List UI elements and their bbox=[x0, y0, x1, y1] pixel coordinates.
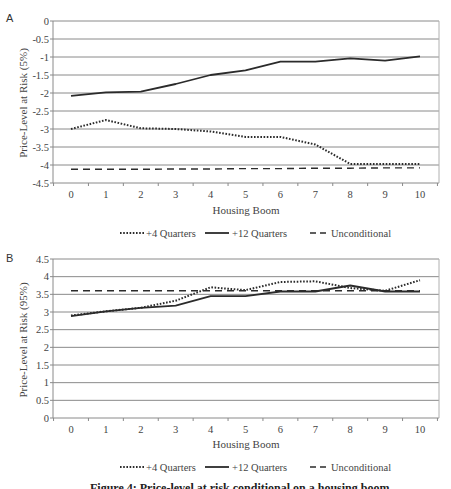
figure-caption: Figure 4: Price-level at risk conditiona… bbox=[0, 480, 451, 489]
y-tick-label: -3 bbox=[40, 124, 49, 135]
y-tick-label: -1 bbox=[40, 52, 49, 63]
x-tick-label: 0 bbox=[68, 424, 73, 435]
x-tick-label: 7 bbox=[313, 189, 318, 200]
x-tick-label: 1 bbox=[103, 189, 108, 200]
x-tick-label: 10 bbox=[415, 189, 426, 200]
x-tick-label: 5 bbox=[243, 189, 248, 200]
y-tick-label: 3.5 bbox=[36, 289, 49, 300]
panel-b-x-axis-title: Housing Boom bbox=[213, 438, 280, 450]
panel-b-series bbox=[71, 280, 420, 316]
panel-a-x-axis: 012345678910 bbox=[54, 183, 438, 200]
panel-a-plot-frame bbox=[53, 21, 439, 183]
x-tick-label: 9 bbox=[382, 424, 387, 435]
legend-label: +4 Quarters bbox=[146, 462, 196, 473]
y-tick-label: 3 bbox=[44, 307, 49, 318]
y-tick-label: 0.5 bbox=[36, 395, 49, 406]
panel-a-series bbox=[71, 56, 420, 169]
y-tick-label: 1.5 bbox=[36, 360, 49, 371]
x-tick-label: 2 bbox=[138, 189, 143, 200]
x-tick-label: 5 bbox=[243, 424, 248, 435]
y-tick-label: -2 bbox=[40, 88, 49, 99]
x-tick-label: 8 bbox=[348, 424, 353, 435]
legend-label: +4 Quarters bbox=[146, 228, 196, 239]
y-tick-label: -1.5 bbox=[32, 70, 49, 81]
panel-b-y-axis-title: Price-Level at Risk (95%) bbox=[17, 282, 30, 397]
panel-b-legend: +4 Quarters+12 QuartersUnconditional bbox=[120, 462, 391, 473]
panel-b-chart: B 4.543.532.521.510.50 012345678910 Pric… bbox=[6, 252, 439, 473]
x-tick-label: 7 bbox=[313, 424, 318, 435]
panel-a-y-axis-title: Price-Level at Risk (5%) bbox=[17, 48, 30, 158]
x-tick-label: 8 bbox=[348, 189, 353, 200]
x-tick-label: 4 bbox=[208, 189, 214, 200]
x-tick-label: 2 bbox=[138, 424, 143, 435]
x-tick-label: 6 bbox=[278, 189, 283, 200]
panel-b-letter: B bbox=[6, 252, 13, 264]
panel-a-x-axis-title: Housing Boom bbox=[213, 204, 280, 216]
legend-label: Unconditional bbox=[331, 228, 391, 239]
figure: A 0-0.5-1-1.5-2-2.5-3-3.5-4-4.5 01234567… bbox=[0, 0, 451, 489]
x-tick-label: 10 bbox=[415, 424, 426, 435]
y-tick-label: -4 bbox=[40, 160, 49, 171]
y-tick-label: 2 bbox=[44, 342, 49, 353]
panel-a-legend: +4 Quarters+12 QuartersUnconditional bbox=[120, 228, 391, 239]
y-tick-label: -2.5 bbox=[32, 106, 49, 117]
y-tick-label: -3.5 bbox=[32, 142, 49, 153]
x-tick-label: 6 bbox=[278, 424, 283, 435]
legend-label: +12 Quarters bbox=[232, 228, 287, 239]
y-tick-label: -4.5 bbox=[32, 178, 49, 189]
y-tick-label: 4.5 bbox=[36, 254, 49, 265]
figure-caption-text: Figure 4: Price-level at risk conditiona… bbox=[0, 482, 451, 489]
x-tick-label: 9 bbox=[382, 189, 387, 200]
series-line-12-quarters bbox=[71, 56, 420, 96]
x-tick-label: 1 bbox=[103, 424, 108, 435]
y-tick-label: 0 bbox=[44, 413, 49, 424]
panel-b-plot-frame bbox=[53, 259, 439, 418]
panel-b-x-axis: 012345678910 bbox=[54, 418, 438, 435]
panel-a-gridlines bbox=[53, 21, 439, 183]
y-tick-label: 0 bbox=[44, 16, 49, 27]
panel-a-letter: A bbox=[6, 12, 14, 24]
x-tick-label: 0 bbox=[68, 189, 73, 200]
panel-a-y-axis: 0-0.5-1-1.5-2-2.5-3-3.5-4-4.5 bbox=[32, 16, 53, 189]
legend-label: Unconditional bbox=[331, 462, 391, 473]
y-tick-label: 2.5 bbox=[36, 324, 49, 335]
series-line-4-quarters bbox=[71, 120, 420, 164]
y-tick-label: 4 bbox=[44, 271, 50, 282]
legend-label: +12 Quarters bbox=[232, 462, 287, 473]
panel-b-y-axis: 4.543.532.521.510.50 bbox=[36, 254, 53, 424]
y-tick-label: -0.5 bbox=[32, 34, 49, 45]
panel-a-chart: A 0-0.5-1-1.5-2-2.5-3-3.5-4-4.5 01234567… bbox=[6, 12, 439, 239]
series-line-unconditional bbox=[71, 168, 420, 169]
y-tick-label: 1 bbox=[44, 377, 49, 388]
x-tick-label: 4 bbox=[208, 424, 214, 435]
x-tick-label: 3 bbox=[173, 424, 178, 435]
panel-b-gridlines bbox=[53, 259, 439, 418]
x-tick-label: 3 bbox=[173, 189, 178, 200]
